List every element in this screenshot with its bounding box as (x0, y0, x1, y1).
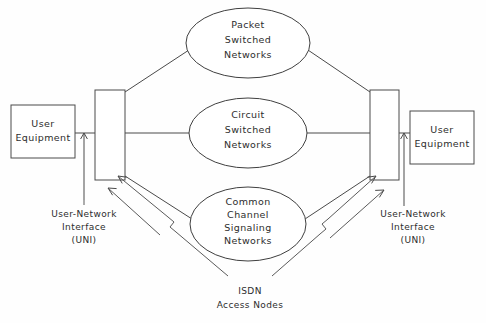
circuit-network-line2: Switched (225, 124, 271, 135)
signaling-network-line4: Networks (224, 235, 272, 246)
signaling-network-line2: Channel (227, 209, 269, 220)
signaling-network-line3: Signaling (224, 222, 271, 233)
uni-right-label-line3: (UNI) (401, 235, 426, 245)
uni-right-label-line1: User-Network (380, 209, 446, 219)
user-equipment-right-line2: Equipment (414, 138, 469, 149)
user-equipment-right-line1: User (430, 124, 453, 135)
isdn-access-nodes-label-line1: ISDN (238, 286, 262, 296)
isdn-access-node-left (95, 90, 125, 180)
isdn-architecture-diagram: User Equipment User Equipment Packet Swi… (0, 0, 486, 323)
packet-network-line2: Switched (225, 34, 271, 45)
diagram-canvas: User Equipment User Equipment Packet Swi… (0, 0, 486, 323)
user-equipment-left-line2: Equipment (15, 132, 70, 143)
link-left-node-to-packet (125, 48, 192, 92)
isdn-access-node-right (370, 90, 399, 180)
uni-right-label-line2: Interface (391, 222, 435, 232)
uni-left-label-line1: User-Network (51, 209, 117, 219)
packet-network-line3: Networks (224, 49, 272, 60)
packet-network-line1: Packet (231, 19, 264, 30)
uni-left-label-line3: (UNI) (72, 235, 97, 245)
circuit-network-line1: Circuit (231, 109, 264, 120)
signaling-network-line1: Common (225, 196, 270, 207)
uni-left-label-line2: Interface (62, 222, 106, 232)
user-equipment-left-line1: User (31, 118, 54, 129)
circuit-network-line3: Networks (224, 139, 272, 150)
isdn-access-nodes-label-line2: Access Nodes (217, 300, 284, 310)
link-right-node-to-signaling (305, 176, 370, 219)
link-right-node-to-packet (305, 48, 370, 92)
